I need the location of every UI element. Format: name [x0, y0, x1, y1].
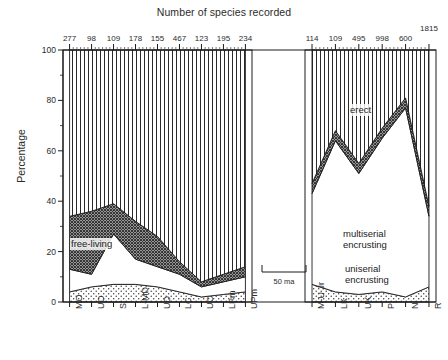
y-tick-label: 0: [30, 297, 56, 307]
scale-bar-label: 50 ma: [274, 277, 295, 286]
y-tick-label: 80: [30, 95, 56, 105]
annotation-multiserial-line2: encrusting: [343, 239, 387, 251]
x-tick-label: P: [386, 303, 396, 309]
species-count-label: 495: [352, 34, 365, 43]
figure-root: Number of species recorded Percentage 27…: [0, 0, 448, 360]
annotation-free-living: free-living: [70, 238, 113, 250]
species-count-label: 195: [217, 34, 230, 43]
x-tick-label: UD: [162, 296, 172, 309]
annotation-uniserial-line2: encrusting: [345, 274, 389, 286]
chart-canvas: [0, 0, 448, 360]
x-tick-label: LPm: [227, 290, 237, 309]
species-count-label: 109: [329, 34, 342, 43]
x-tick-label: LC: [183, 297, 193, 309]
x-tick-label: UO: [96, 296, 106, 310]
species-count-label: 114: [306, 34, 319, 43]
annotation-erect: erect: [349, 104, 372, 116]
species-count-label: 600: [399, 34, 412, 43]
x-tick-label: M-U Jr: [316, 282, 326, 309]
species-count-label: 277: [63, 34, 76, 43]
x-tick-label: UK: [363, 296, 373, 309]
species-count-label: 178: [129, 34, 142, 43]
x-tick-label: N: [410, 303, 420, 310]
x-tick-label: UPm: [249, 289, 259, 309]
species-count-label: 998: [376, 34, 389, 43]
species-count-label: 123: [195, 34, 208, 43]
y-tick-label: 100: [30, 45, 56, 55]
y-tick-label: 60: [30, 146, 56, 156]
x-tick-label: LK: [339, 298, 349, 309]
x-tick-label: UC: [205, 296, 215, 309]
species-count-label: 467: [173, 34, 186, 43]
x-tick-label: L-MD: [140, 287, 150, 309]
scale-bar: [262, 265, 306, 272]
species-count-label: 155: [151, 34, 164, 43]
y-tick-label: 20: [30, 247, 56, 257]
annotation-uniserial-line1: uniserial: [345, 263, 380, 275]
species-count-label: 234: [239, 34, 252, 43]
species-count-label: 1815: [420, 24, 438, 33]
annotation-multiserial-line1: multiserial: [343, 228, 386, 240]
x-tick-label: MO: [74, 295, 84, 310]
x-tick-label: R: [433, 303, 443, 310]
species-count-label: 98: [87, 34, 96, 43]
x-tick-label: S: [118, 303, 128, 309]
y-tick-label: 40: [30, 196, 56, 206]
species-count-label: 109: [107, 34, 120, 43]
